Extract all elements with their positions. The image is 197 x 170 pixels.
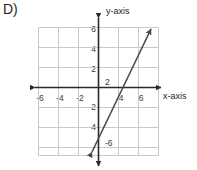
multiple-choice-graph-figure: D) y-axis x-axis -6 -4 -2 4 6 6 4 2 -2 -… [0, 0, 197, 170]
coordinate-plane-plot [0, 0, 197, 170]
